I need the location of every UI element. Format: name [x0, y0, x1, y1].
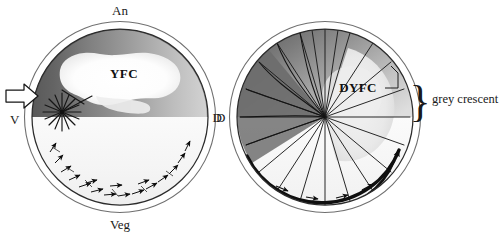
label-vegetal-pole: Veg: [110, 217, 131, 232]
label-dorsal-right: D: [213, 110, 222, 125]
grey-crescent-brace: }: [409, 77, 430, 126]
right-egg-panel: DYFC D } grey crescent: [213, 22, 499, 213]
left-egg-panel: An Veg V D YFC: [6, 3, 225, 232]
label-ventral: V: [10, 112, 20, 127]
label-yfc: YFC: [110, 66, 138, 81]
figure-root: An Veg V D YFC: [0, 0, 501, 235]
figure-svg: An Veg V D YFC: [0, 0, 501, 235]
aster-center: [60, 110, 64, 114]
label-dyfc: DYFC: [339, 80, 377, 95]
label-animal-pole: An: [112, 3, 128, 18]
label-grey-crescent: grey crescent: [432, 92, 499, 106]
